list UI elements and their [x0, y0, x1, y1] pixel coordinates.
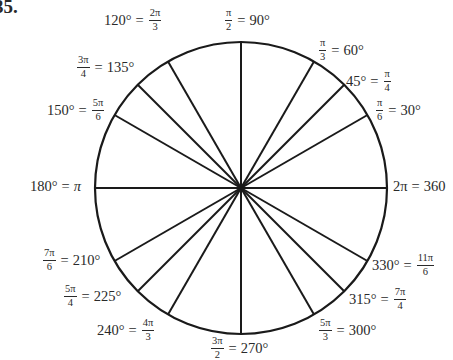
- label-60: π3 =60°: [318, 38, 364, 62]
- label-330: 330°= 11π6: [372, 253, 435, 277]
- label-225: 5π4 =225°: [63, 284, 121, 308]
- label-240: 240°= 4π3: [97, 318, 155, 342]
- label-45: 45°= π4: [346, 69, 392, 93]
- label-360: 2π=360: [393, 179, 446, 194]
- label-150: 150°= 5π6: [47, 98, 105, 122]
- label-30: π6 =30°: [375, 98, 421, 122]
- label-180: 180°=π: [30, 179, 81, 194]
- label-300: 5π3 =300°: [318, 318, 376, 342]
- label-120: 120°= 2π3: [104, 8, 162, 32]
- label-210: 7π6 =210°: [42, 248, 100, 272]
- label-315: 315°= 7π4: [349, 287, 407, 311]
- label-135: 3π4 =135°: [76, 55, 134, 79]
- label-90: π2 =90°: [224, 8, 270, 32]
- label-270: 3π2 =270°: [210, 336, 268, 360]
